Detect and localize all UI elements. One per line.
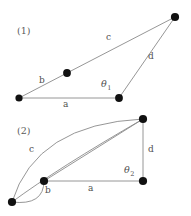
label-theta1-panel-1: θ1 bbox=[101, 79, 111, 91]
node-bottom-right-panel-2 bbox=[139, 177, 147, 185]
node-bottom-right-panel-1 bbox=[115, 94, 123, 102]
figure-root: (1) a b c d θ1 (2) a b c d θ2 bbox=[0, 0, 191, 216]
node-mid-upper-panel-1 bbox=[63, 69, 71, 77]
arc-b-loop-panel-2 bbox=[12, 181, 44, 203]
panel-1-caption: (1) bbox=[17, 26, 30, 36]
theta1-subscript: 1 bbox=[107, 84, 112, 92]
label-d-panel-1: d bbox=[148, 52, 154, 61]
edge-d-panel-1 bbox=[119, 17, 175, 98]
label-c-panel-2: c bbox=[29, 145, 34, 154]
theta2-subscript: 2 bbox=[130, 170, 135, 178]
theta2-glyph: θ bbox=[124, 164, 130, 175]
node-top-right-panel-1 bbox=[171, 13, 179, 21]
panel-2-caption: (2) bbox=[17, 126, 30, 136]
theta1-glyph: θ bbox=[101, 78, 107, 89]
label-a-panel-1: a bbox=[63, 100, 68, 109]
label-c-panel-1: c bbox=[106, 33, 111, 42]
node-top-right-panel-2 bbox=[139, 115, 147, 123]
label-theta2-panel-2: θ2 bbox=[124, 165, 134, 177]
panel-1-geometry bbox=[15, 13, 179, 102]
node-bottom-left-panel-2 bbox=[8, 198, 16, 206]
label-b-panel-2: b bbox=[45, 186, 51, 195]
node-left-panel-1 bbox=[15, 94, 22, 101]
edge-c-panel-1 bbox=[67, 17, 175, 73]
label-b-panel-1: b bbox=[39, 76, 45, 85]
label-a-panel-2: a bbox=[88, 184, 93, 193]
node-junction-b-panel-2 bbox=[40, 177, 48, 185]
label-d-panel-2: d bbox=[148, 145, 154, 154]
